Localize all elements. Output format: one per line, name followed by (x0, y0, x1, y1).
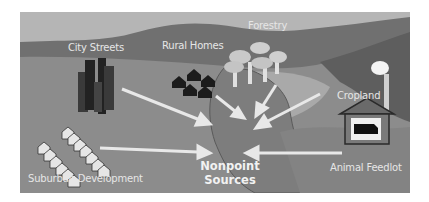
label-suburban-development: Suburban Development (28, 173, 143, 184)
label-city-streets: City Streets (68, 42, 124, 53)
label-forestry: Forestry (248, 20, 287, 31)
center-label-line1: Nonpoint (190, 159, 270, 173)
label-rural-homes: Rural Homes (162, 40, 224, 51)
label-cropland: Cropland (337, 90, 380, 101)
nonpoint-sources-diagram: City Streets Rural Homes Forestry Cropla… (20, 12, 410, 193)
label-animal-feedlot: Animal Feedlot (330, 162, 402, 173)
center-label-line2: Sources (190, 173, 270, 187)
nonpoint-sources-label: Nonpoint Sources (190, 159, 270, 187)
